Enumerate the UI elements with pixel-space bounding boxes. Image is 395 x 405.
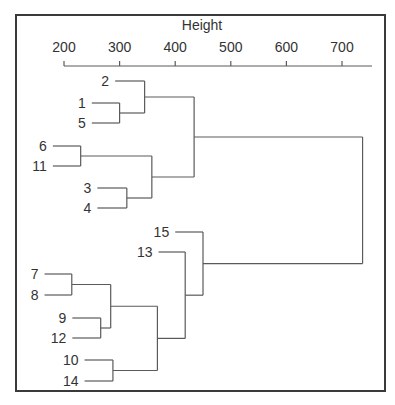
leaf-label: 8: [31, 287, 39, 303]
leaf-label: 5: [78, 115, 86, 131]
axis-tick-label: 200: [52, 39, 76, 55]
axis-title: Height: [182, 17, 223, 33]
leaf-labels: 215611341513789121014: [31, 73, 170, 389]
leaf-label: 6: [39, 138, 47, 154]
leaf-label: 7: [31, 266, 39, 282]
height-axis: 200300400500600700: [52, 39, 372, 66]
axis-tick-label: 500: [219, 39, 243, 55]
leaf-label: 2: [101, 73, 109, 89]
leaf-label: 9: [59, 310, 67, 326]
axis-tick-label: 400: [164, 39, 188, 55]
leaf-label: 4: [84, 200, 92, 216]
dendrogram-chart: Height 200300400500600700 21561134151378…: [0, 0, 395, 405]
leaf-label: 12: [51, 330, 67, 346]
leaf-label: 15: [154, 224, 170, 240]
leaf-label: 3: [84, 180, 92, 196]
leaf-label: 10: [63, 352, 79, 368]
leaf-label: 13: [137, 244, 153, 260]
leaf-label: 14: [63, 373, 79, 389]
leaf-label: 11: [32, 158, 47, 174]
dendrogram-tree: [45, 81, 363, 381]
leaf-label: 1: [78, 95, 86, 111]
axis-tick-label: 700: [330, 39, 354, 55]
axis-tick-label: 600: [275, 39, 299, 55]
axis-tick-label: 300: [108, 39, 132, 55]
